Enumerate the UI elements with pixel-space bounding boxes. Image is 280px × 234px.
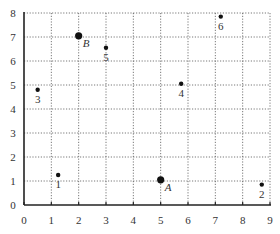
point-label: 5 bbox=[103, 51, 109, 63]
x-tick-label: 0 bbox=[21, 214, 27, 226]
x-tick-label: 8 bbox=[240, 214, 246, 226]
x-tick-label: 7 bbox=[213, 214, 219, 226]
x-tick-label: 9 bbox=[267, 214, 273, 226]
y-tick-label: 8 bbox=[10, 7, 16, 19]
y-tick-label: 6 bbox=[10, 55, 16, 67]
point-label: 6 bbox=[218, 20, 224, 32]
point-marker bbox=[260, 182, 264, 186]
y-tick-label: 3 bbox=[10, 127, 16, 139]
point-marker-large bbox=[75, 32, 82, 39]
point-marker bbox=[219, 14, 223, 18]
data-points: 123456AB bbox=[35, 14, 265, 199]
point-label: 3 bbox=[35, 93, 41, 105]
grid-lines bbox=[24, 13, 270, 205]
point-label: A bbox=[164, 181, 172, 193]
x-tick-label: 3 bbox=[103, 214, 109, 226]
axes bbox=[24, 12, 271, 205]
x-tick-label: 4 bbox=[131, 214, 137, 226]
x-tick-label: 6 bbox=[185, 214, 191, 226]
x-tick-label: 1 bbox=[49, 214, 55, 226]
x-tick-label: 5 bbox=[158, 214, 164, 226]
point-marker bbox=[35, 88, 39, 92]
y-tick-label: 2 bbox=[10, 151, 16, 163]
point-marker-large bbox=[157, 176, 164, 183]
y-tick-label: 4 bbox=[10, 103, 16, 115]
y-tick-label: 7 bbox=[10, 31, 16, 43]
point-label: B bbox=[83, 37, 90, 49]
x-tick-label: 2 bbox=[76, 214, 82, 226]
point-label: 1 bbox=[55, 178, 61, 190]
point-marker bbox=[179, 82, 183, 86]
y-tick-label: 0 bbox=[10, 199, 16, 211]
point-label: 2 bbox=[259, 188, 265, 200]
point-label: 4 bbox=[178, 87, 184, 99]
tick-labels: 0123456789012345678 bbox=[10, 7, 273, 226]
point-marker bbox=[104, 46, 108, 50]
scatter-chart: 0123456789012345678 123456AB bbox=[0, 0, 280, 234]
y-tick-label: 5 bbox=[10, 79, 16, 91]
point-marker bbox=[56, 173, 60, 177]
y-tick-label: 1 bbox=[10, 175, 16, 187]
